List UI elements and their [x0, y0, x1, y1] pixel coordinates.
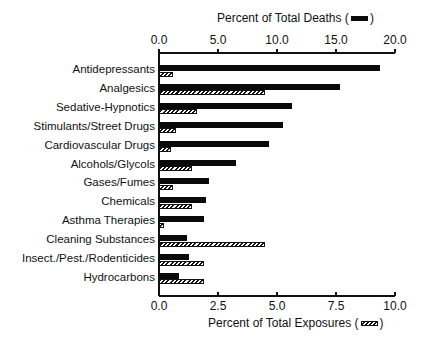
deaths-bar: [159, 122, 283, 128]
top-axis-tick: [276, 49, 278, 53]
category-label: Stimulants/Street Drugs: [34, 120, 155, 132]
category-label: Gases/Fumes: [83, 176, 155, 188]
deaths-bar: [159, 141, 269, 147]
category-label: Analgesics: [99, 82, 155, 94]
exposures-bar: [159, 109, 197, 114]
legend-solid-bar-icon: [351, 16, 368, 21]
category-label: Sedative-Hypnotics: [56, 101, 155, 113]
deaths-bar: [159, 216, 204, 222]
exposures-bar: [159, 185, 173, 190]
bottom-axis-title: Percent of Total Exposures (): [208, 316, 384, 330]
top-axis-tick-label: 15.0: [324, 33, 347, 47]
category-label: Chemicals: [101, 195, 155, 207]
top-axis-tick-label: 10.0: [265, 33, 288, 47]
category-label: Hydrocarbons: [83, 271, 155, 283]
bottom-axis-tick: [158, 292, 160, 296]
top-axis-tick-label: 5.0: [210, 33, 227, 47]
bottom-axis-tick-label: 0.0: [151, 299, 168, 313]
category-label: Cardiovascular Drugs: [44, 139, 155, 151]
bottom-axis-tick: [394, 292, 396, 296]
legend-hatched-bar-icon: [361, 321, 378, 326]
deaths-bar: [159, 235, 187, 241]
top-axis-tick: [217, 49, 219, 53]
exposures-bar: [159, 279, 204, 284]
deaths-bar: [159, 197, 206, 203]
bottom-axis-tick-label: 5.0: [269, 299, 286, 313]
deaths-bar: [159, 103, 292, 109]
exposures-bar: [159, 223, 164, 228]
deaths-bar: [159, 254, 189, 260]
bottom-axis-tick-label: 10.0: [383, 299, 406, 313]
bottom-axis-tick: [217, 292, 219, 296]
exposures-bar: [159, 166, 192, 171]
bottom-axis-tick: [335, 292, 337, 296]
deaths-bar: [159, 178, 209, 184]
category-label: Alcohols/Glycols: [71, 158, 155, 170]
top-axis-tick: [394, 49, 396, 53]
top-axis-title: Percent of Total Deaths (): [217, 11, 374, 25]
top-axis-tick-label: 20.0: [383, 33, 406, 47]
deaths-bar: [159, 160, 236, 166]
category-label: Cleaning Substances: [46, 233, 155, 245]
top-axis-title-text: Percent of Total Deaths: [217, 11, 342, 25]
exposures-bar: [159, 90, 265, 95]
deaths-bar: [159, 84, 340, 90]
bottom-axis-tick-label: 7.5: [328, 299, 345, 313]
exposures-bar: [159, 242, 265, 247]
exposures-bar: [159, 204, 192, 209]
exposures-bar: [159, 72, 173, 77]
exposures-bar: [159, 128, 176, 133]
exposures-bar: [159, 147, 171, 152]
deaths-bar: [159, 273, 179, 279]
top-axis-tick: [335, 49, 337, 53]
bottom-axis-tick-label: 2.5: [210, 299, 227, 313]
top-axis-tick-label: 0.0: [151, 33, 168, 47]
deaths-bar: [159, 65, 380, 71]
category-label: Insect./Pest./Rodenticides: [22, 252, 155, 264]
exposures-bar: [159, 261, 204, 266]
category-label: Asthma Therapies: [62, 214, 155, 226]
bottom-axis-title-text: Percent of Total Exposures: [208, 316, 351, 330]
category-label: Antidepressants: [73, 63, 155, 75]
bottom-axis-tick: [276, 292, 278, 296]
